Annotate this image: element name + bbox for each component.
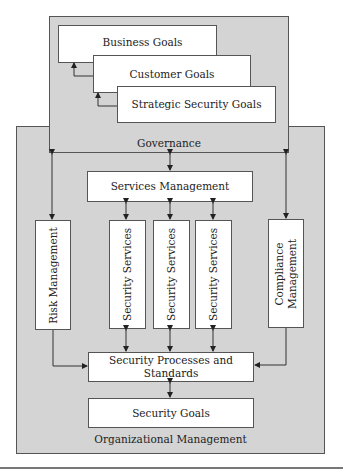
organizational-management-label: Organizational Management: [16, 433, 325, 445]
security-services-label-3: Security Services: [207, 228, 220, 321]
customer-goals-label: Customer Goals: [130, 68, 215, 81]
security-goals-label: Security Goals: [132, 407, 210, 420]
risk-management-label: Risk Management: [47, 227, 60, 323]
strategic-security-goals-label: Strategic Security Goals: [131, 98, 261, 111]
security-services-box-3: Security Services: [195, 220, 232, 329]
security-services-box-1: Security Services: [109, 220, 146, 329]
security-goals-box: Security Goals: [88, 398, 254, 428]
governance-label: Governance: [49, 137, 289, 149]
bottom-divider: [0, 467, 343, 469]
security-services-box-2: Security Services: [153, 220, 190, 329]
compliance-management-box: Compliance Management: [268, 219, 304, 328]
services-management-label: Services Management: [111, 180, 230, 193]
services-management-box: Services Management: [87, 171, 253, 202]
risk-management-box: Risk Management: [35, 220, 71, 330]
strategic-security-goals-box: Strategic Security Goals: [117, 86, 276, 123]
compliance-management-label: Compliance Management: [273, 238, 299, 308]
business-goals-label: Business Goals: [102, 36, 182, 49]
security-processes-label: Security Processes and Standards: [109, 354, 233, 380]
security-processes-box: Security Processes and Standards: [88, 352, 254, 382]
security-services-label-1: Security Services: [121, 228, 134, 321]
diagram-canvas: Organizational Management Governance Bus…: [0, 0, 343, 471]
security-services-label-2: Security Services: [165, 228, 178, 321]
